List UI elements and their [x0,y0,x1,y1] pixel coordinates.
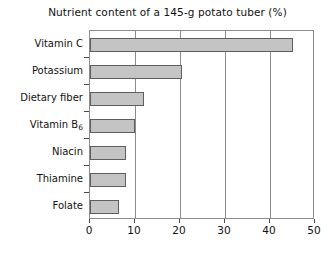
x-axis-tick [224,219,225,223]
x-axis-label: 40 [249,224,289,236]
bar [90,200,119,214]
bar [90,92,144,106]
plot-area [89,30,314,219]
bar-chart: Nutrient content of a 145-g potato tuber… [0,0,335,253]
y-axis-label: Folate [0,200,83,211]
y-axis-tick [84,192,89,193]
x-axis-label: 50 [294,224,334,236]
x-axis-label: 10 [114,224,154,236]
x-axis-tick [134,219,135,223]
bar [90,65,182,79]
y-axis-tick [84,165,89,166]
gridline [180,31,181,218]
gridline [270,31,271,218]
y-axis-label: Potassium [0,65,83,76]
y-axis-label: Niacin [0,146,83,157]
y-axis-label: Vitamin B6 [0,119,83,133]
bar [90,146,126,160]
gridline [135,31,136,218]
x-axis-tick [179,219,180,223]
y-axis-tick [84,111,89,112]
y-axis-label: Thiamine [0,173,83,184]
bar [90,173,126,187]
x-axis-label: 20 [159,224,199,236]
x-axis-label: 0 [69,224,109,236]
y-axis-tick [84,84,89,85]
x-axis-tick [314,219,315,223]
gridline [225,31,226,218]
bar [90,38,293,52]
y-axis-tick [84,138,89,139]
bar [90,119,135,133]
y-axis-tick [84,57,89,58]
y-axis-label: Dietary fiber [0,92,83,103]
y-axis-label: Vitamin C [0,38,83,49]
x-axis-label: 30 [204,224,244,236]
chart-title: Nutrient content of a 145-g potato tuber… [0,6,335,18]
x-axis-tick [89,219,90,223]
x-axis-tick [269,219,270,223]
